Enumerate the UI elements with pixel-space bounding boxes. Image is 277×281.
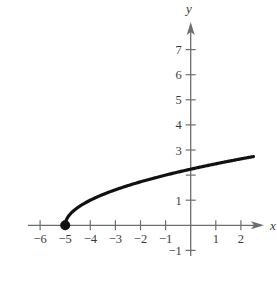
y-tick-label: 6 [175, 68, 181, 82]
y-tick-label: 5 [175, 93, 181, 107]
y-tick-label: 7 [175, 43, 181, 57]
function-graph: −6−5−4−3−2−112−1134567 x y [0, 0, 277, 281]
x-tick-label: 2 [238, 232, 244, 246]
closed-endpoint [60, 220, 70, 230]
x-tick-label: −6 [33, 232, 46, 246]
y-tick-label: 1 [175, 194, 181, 208]
ticks [40, 50, 241, 251]
x-axis-label: x [269, 218, 276, 233]
x-tick-label: −2 [134, 232, 147, 246]
x-tick-label: −3 [109, 232, 122, 246]
x-tick-label: −5 [59, 232, 72, 246]
y-tick-label: 3 [175, 144, 181, 158]
y-tick-label: 4 [175, 118, 182, 132]
y-tick-label: −1 [168, 244, 181, 258]
x-tick-label: 1 [213, 232, 219, 246]
x-tick-label: −4 [84, 232, 98, 246]
y-axis-label: y [184, 1, 192, 16]
sqrt-curve [65, 157, 253, 226]
